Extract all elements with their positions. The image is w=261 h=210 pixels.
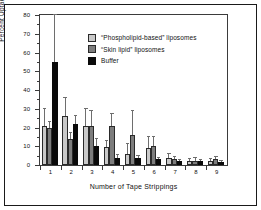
error-bar-cap: [152, 136, 155, 137]
x-tick-label: 4: [103, 169, 123, 175]
x-tick-mark: [123, 166, 124, 170]
x-tick-mark: [185, 166, 186, 170]
error-bar-line: [49, 122, 50, 128]
error-bar-line: [195, 158, 196, 161]
error-bar-line: [200, 160, 201, 161]
figure-container: Percent Uptake 01020304050607080 1234567…: [0, 0, 261, 210]
x-tick-mark: [165, 166, 166, 170]
y-minor-tick-mark: [37, 43, 40, 44]
error-bar-cap: [209, 158, 212, 159]
error-bar-line: [174, 157, 175, 160]
x-tick-label: 6: [144, 169, 164, 175]
error-bar-line: [189, 159, 190, 161]
legend: “Phospholipid-based” liposomes“Skin lipi…: [88, 33, 197, 68]
x-tick-mark: [206, 166, 207, 170]
x-tick-label: 3: [82, 169, 102, 175]
error-bar-line: [210, 159, 211, 161]
x-tick-label: 9: [207, 169, 227, 175]
y-axis-label: Percent Uptake: [0, 0, 5, 58]
error-bar-line: [96, 139, 97, 147]
error-bar-cap: [131, 110, 134, 111]
y-tick-mark: [35, 53, 39, 54]
error-bar-line: [179, 160, 180, 161]
legend-label: Buffer: [101, 57, 119, 64]
error-bar-cap: [95, 138, 98, 139]
error-bar-cap: [188, 158, 191, 159]
x-tick-label: 8: [186, 169, 206, 175]
y-minor-tick-mark: [37, 99, 40, 100]
x-axis-label: Number of Tape Strippings: [39, 183, 228, 190]
y-tick-label: 30: [6, 106, 30, 112]
error-bar-cap: [126, 143, 129, 144]
legend-swatch: [88, 45, 96, 53]
error-bar-cap: [89, 110, 92, 111]
bar: [94, 146, 99, 165]
plot-wrapper: Percent Uptake 01020304050607080 1234567…: [0, 0, 261, 210]
y-minor-tick-mark: [37, 156, 40, 157]
bar: [156, 159, 161, 165]
legend-item: “Skin lipid” liposomes: [88, 45, 197, 54]
error-bar-line: [91, 111, 92, 126]
error-bar-line: [153, 137, 154, 146]
error-bar-line: [148, 137, 149, 148]
y-tick-label: 60: [6, 50, 30, 56]
error-bar-line: [54, 15, 55, 62]
y-minor-tick-mark: [37, 118, 40, 119]
y-tick-label: 80: [6, 12, 30, 18]
y-tick-label: 50: [6, 68, 30, 74]
legend-label: “Skin lipid” liposomes: [101, 46, 165, 53]
legend-item: “Phospholipid-based” liposomes: [88, 33, 197, 42]
x-tick-mark: [82, 166, 83, 170]
y-tick-mark: [35, 165, 39, 166]
y-tick-mark: [35, 71, 39, 72]
error-bar-cap: [199, 159, 202, 160]
error-bar-cap: [219, 160, 222, 161]
error-bar-line: [85, 109, 86, 126]
error-bar-line: [106, 141, 107, 148]
legend-label: “Phospholipid-based” liposomes: [101, 34, 197, 41]
error-bar-cap: [147, 136, 150, 137]
error-bar-cap: [69, 132, 72, 133]
y-minor-tick-mark: [37, 81, 40, 82]
bar: [135, 158, 140, 166]
x-tick-mark: [144, 166, 145, 170]
bar: [52, 62, 57, 165]
error-bar-line: [158, 158, 159, 160]
x-tick-label: 5: [124, 169, 144, 175]
x-tick-mark: [40, 166, 41, 170]
y-minor-tick-mark: [37, 62, 40, 63]
legend-item: Buffer: [88, 56, 197, 65]
y-tick-mark: [35, 128, 39, 129]
error-bar-line: [138, 156, 139, 158]
x-tick-mark: [102, 166, 103, 170]
error-bar-line: [168, 154, 169, 158]
y-axis-label-text: Percent Uptake: [0, 0, 5, 58]
legend-swatch: [88, 57, 96, 65]
error-bar-cap: [116, 154, 119, 155]
bar: [115, 158, 120, 166]
x-tick-label: 2: [61, 169, 81, 175]
error-bar-cap: [63, 97, 66, 98]
error-bar-cap: [48, 121, 51, 122]
error-bar-line: [65, 98, 66, 117]
legend-swatch: [88, 34, 96, 42]
error-bar-line: [215, 157, 216, 160]
error-bar-line: [111, 114, 112, 125]
error-bar-cap: [84, 108, 87, 109]
y-tick-label: 70: [6, 31, 30, 37]
error-bar-cap: [157, 157, 160, 158]
error-bar-line: [127, 144, 128, 153]
x-tick-mark: [61, 166, 62, 170]
x-tick-label: 1: [40, 169, 60, 175]
error-bar-cap: [193, 157, 196, 158]
error-bar-cap: [136, 155, 139, 156]
y-tick-mark: [35, 15, 39, 16]
error-bar-line: [70, 133, 71, 139]
error-bar-cap: [74, 115, 77, 116]
y-minor-tick-mark: [37, 24, 40, 25]
x-tick-label: 7: [165, 169, 185, 175]
error-bar-line: [132, 111, 133, 135]
error-bar-cap: [214, 156, 217, 157]
y-tick-mark: [35, 90, 39, 91]
error-bar-cap: [53, 14, 56, 15]
